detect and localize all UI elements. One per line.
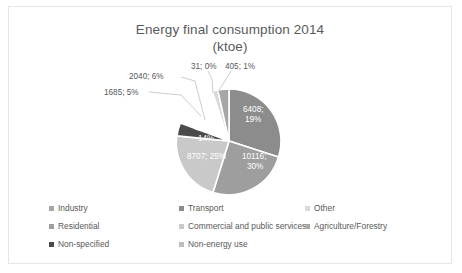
legend-swatch-agriculture-forestry [305, 224, 310, 229]
data-label-commercial: 4951; [195, 124, 216, 133]
leader-line-non-energy-use [208, 71, 213, 93]
legend-swatch-commercial-and-public-services [179, 224, 184, 229]
legend-item-other[interactable]: Other [305, 203, 335, 213]
legend-swatch-residential [49, 224, 54, 229]
data-label-transport-pct: 30% [247, 162, 263, 171]
data-label-industry: 6408; [243, 105, 264, 114]
data-label-agriculture: 2040; 6% [129, 72, 164, 81]
data-label-residential: 8707; 25% [187, 152, 226, 161]
data-label-industry-pct: 19% [245, 115, 261, 124]
data-label-other: 405; 1% [225, 62, 255, 71]
legend-label-agriculture-forestry: Agriculture/Forestry [314, 221, 387, 231]
legend-item-commercial-and-public-services[interactable]: Commercial and public services [179, 221, 306, 231]
legend-item-non-specified[interactable]: Non-specified [49, 239, 109, 249]
pie-slice-industry[interactable] [218, 89, 229, 141]
legend-item-agriculture-forestry[interactable]: Agriculture/Forestry [305, 221, 387, 231]
legend-label-commercial-and-public-services: Commercial and public services [188, 221, 306, 231]
leader-line-non-specified [149, 92, 201, 116]
legend-label-non-specified: Non-specified [58, 239, 109, 249]
legend-label-industry: Industry [58, 203, 88, 213]
legend-item-non-energy-use[interactable]: Non-energy use [179, 239, 248, 249]
legend-label-non-energy-use: Non-energy use [188, 239, 248, 249]
legend-swatch-other [305, 206, 310, 211]
legend-item-transport[interactable]: Transport [179, 203, 224, 213]
legend-label-transport: Transport [188, 203, 224, 213]
legend-item-industry[interactable]: Industry [49, 203, 88, 213]
legend-item-residential[interactable]: Residential [49, 221, 99, 231]
data-label-non-energy-use: 31; 0% [191, 62, 217, 71]
legend-label-other: Other [314, 203, 335, 213]
data-label-commercial-pct: 14% [198, 134, 214, 143]
legend-label-residential: Residential [58, 221, 99, 231]
legend-swatch-industry [49, 206, 54, 211]
legend-swatch-transport [179, 206, 184, 211]
legend-swatch-non-specified [49, 242, 54, 247]
chart-legend: Industry Transport Other Residential Com… [33, 203, 437, 259]
legend-swatch-non-energy-use [179, 242, 184, 247]
chart-frame: Energy final consumption 2014 (ktoe) [8, 6, 452, 264]
data-label-transport: 10116; [242, 152, 266, 161]
data-label-non-specified: 1685; 5% [104, 88, 139, 97]
